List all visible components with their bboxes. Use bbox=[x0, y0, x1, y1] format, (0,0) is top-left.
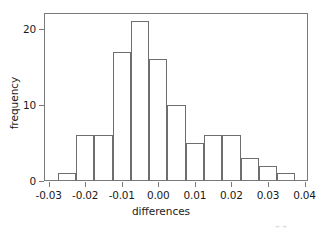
x-axis-label: differences bbox=[0, 205, 322, 217]
x-axis-tick-label: 0.02 bbox=[220, 189, 243, 201]
plot-area-frame bbox=[44, 13, 308, 181]
y-axis-tick bbox=[39, 181, 44, 182]
x-axis-tick bbox=[231, 182, 232, 187]
y-axis-tick bbox=[39, 105, 44, 106]
histogram-figure: -0.03-0.02-0.010.000.010.020.030.0401020… bbox=[0, 0, 322, 234]
x-axis-tick-label: -0.02 bbox=[72, 189, 98, 201]
x-axis-tick bbox=[49, 182, 50, 187]
x-axis-tick bbox=[122, 182, 123, 187]
y-axis-tick-label: 0 bbox=[14, 175, 36, 187]
x-axis-tick-label: 0.03 bbox=[257, 189, 280, 201]
x-axis-tick-label: -0.03 bbox=[36, 189, 62, 201]
x-axis-tick-label: 0.01 bbox=[184, 189, 207, 201]
x-axis-tick-label: 0.00 bbox=[147, 189, 170, 201]
x-axis-tick-label: -0.01 bbox=[109, 189, 135, 201]
page-artifact: ⌁ ⌁ bbox=[275, 222, 287, 231]
y-axis-label: frequency bbox=[8, 60, 20, 146]
y-axis-tick-label: 20 bbox=[14, 23, 36, 35]
y-axis-tick bbox=[39, 29, 44, 30]
x-axis-tick bbox=[195, 182, 196, 187]
x-axis-tick bbox=[158, 182, 159, 187]
x-axis-tick-label: 0.04 bbox=[293, 189, 316, 201]
x-axis-tick bbox=[268, 182, 269, 187]
x-axis-tick bbox=[305, 182, 306, 187]
x-axis-tick bbox=[85, 182, 86, 187]
